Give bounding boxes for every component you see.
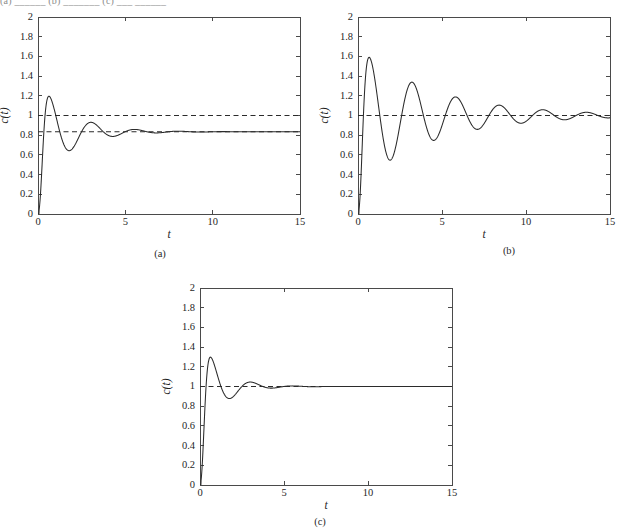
x-axis-tick-label: 10 [521, 216, 532, 227]
x-axis-tick-label: 10 [207, 216, 218, 227]
x-axis-tick-label: 5 [281, 487, 286, 498]
y-axis-tick-label: 0.6 [182, 420, 195, 431]
y-axis-title: c(t) [0, 107, 11, 123]
x-axis-tick-label: 0 [355, 216, 360, 227]
x-axis-title: t [482, 228, 486, 240]
x-axis-tick-label: 15 [605, 216, 616, 227]
y-axis-tick-label: 1.2 [182, 361, 195, 372]
chart-panel-a: 00.20.40.60.811.21.41.61.82051015tc(t) [0, 10, 308, 246]
y-axis-tick-label: 0.2 [20, 188, 33, 199]
page-header-text: (a) ______ (b) _______ (c) ___ ______ [0, 0, 166, 6]
subfigure-caption-b: (b) [489, 245, 529, 256]
y-axis-tick-label: 1.6 [20, 50, 33, 61]
y-axis-tick-label: 2 [28, 11, 33, 22]
x-axis-tick-label: 5 [123, 216, 128, 227]
x-axis-tick-label: 10 [363, 487, 374, 498]
y-axis-tick-label: 1.4 [340, 70, 354, 81]
step-response-c [200, 357, 452, 485]
x-axis-tick-label: 15 [447, 487, 458, 498]
y-axis-tick-label: 0 [28, 208, 33, 219]
y-axis-tick-label: 1 [190, 380, 195, 391]
y-axis-tick-label: 0.8 [340, 129, 353, 140]
subfigure-caption-a: (a) [140, 248, 180, 259]
y-axis-tick-label: 0 [190, 479, 195, 490]
y-axis-tick-label: 1.4 [20, 70, 34, 81]
y-axis-tick-label: 1.2 [340, 90, 353, 101]
y-axis-tick-label: 1.6 [340, 50, 353, 61]
y-axis-tick-label: 0.2 [182, 459, 195, 470]
x-axis-title: t [167, 228, 171, 240]
y-axis-tick-label: 0.8 [182, 400, 195, 411]
y-axis-tick-label: 1.4 [182, 341, 196, 352]
x-axis-tick-label: 5 [439, 216, 444, 227]
x-axis-title: t [324, 499, 328, 511]
y-axis-tick-label: 1 [348, 109, 353, 120]
y-axis-tick-label: 0.4 [340, 169, 354, 180]
x-axis-tick-label: 0 [197, 487, 202, 498]
figure-root: (a) ______ (b) _______ (c) ___ ______ 00… [0, 0, 621, 532]
y-axis-tick-label: 1.6 [182, 321, 195, 332]
step-response-a [38, 96, 300, 214]
step-response-b [358, 57, 610, 214]
x-axis-tick-label: 15 [295, 216, 306, 227]
y-axis-tick-label: 0.2 [340, 188, 353, 199]
y-axis-title: c(t) [160, 378, 173, 394]
y-axis-tick-label: 1.8 [340, 31, 353, 42]
y-axis-tick-label: 0.4 [20, 169, 34, 180]
y-axis-tick-label: 0.8 [20, 129, 33, 140]
y-axis-tick-label: 1.8 [182, 302, 195, 313]
y-axis-tick-label: 1 [28, 109, 33, 120]
chart-panel-b: 00.20.40.60.811.21.41.61.82051015tc(t) [320, 10, 618, 246]
chart-panel-c: 00.20.40.60.811.21.41.61.82051015tc(t) [160, 281, 460, 517]
y-axis-tick-label: 2 [348, 11, 353, 22]
x-axis-tick-label: 0 [35, 216, 40, 227]
y-axis-tick-label: 2 [190, 282, 195, 293]
y-axis-tick-label: 0.6 [20, 149, 33, 160]
subfigure-caption-c: (c) [300, 516, 340, 527]
y-axis-tick-label: 0.6 [340, 149, 353, 160]
y-axis-title: c(t) [318, 107, 331, 123]
y-axis-tick-label: 0 [348, 208, 353, 219]
y-axis-tick-label: 1.8 [20, 31, 33, 42]
y-axis-tick-label: 1.2 [20, 90, 33, 101]
y-axis-tick-label: 0.4 [182, 440, 196, 451]
